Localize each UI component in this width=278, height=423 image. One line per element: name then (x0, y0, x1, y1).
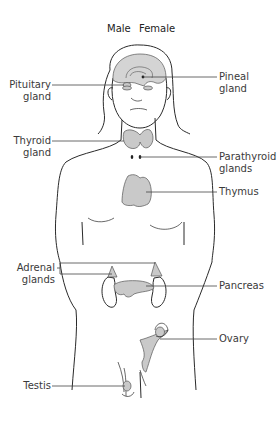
penis-outline (118, 362, 126, 396)
kidney-right (151, 277, 166, 307)
brain (113, 54, 166, 86)
label-parathyroid-line1: Parathyroid (219, 151, 276, 163)
thymus (122, 175, 151, 207)
scrotum-line (122, 392, 134, 396)
label-adrenal-line1: Adrenal (3, 262, 55, 274)
label-testis: Testis (3, 380, 51, 392)
inner-thigh (140, 372, 141, 398)
leader-adrenal-upper (60, 263, 155, 266)
chest-right (150, 222, 182, 229)
label-ovary-line1: Ovary (219, 333, 249, 345)
thyroid-gland (123, 129, 153, 148)
leader-adrenal (60, 266, 112, 274)
label-pituitary-line2: gland (3, 91, 51, 103)
label-parathyroid: Parathyroid glands (219, 151, 276, 175)
mouth (130, 109, 147, 111)
endocrine-system-diagram (0, 0, 278, 423)
torso-left (55, 140, 121, 390)
adrenal-gland-left (108, 266, 117, 277)
neck-left (121, 120, 122, 140)
arm-line-left (82, 222, 83, 245)
label-adrenal-line2: glands (3, 274, 55, 286)
label-pituitary: Pituitary gland (3, 79, 51, 103)
label-parathyroid-line2: glands (219, 163, 276, 175)
label-thyroid-line1: Thyroid (3, 135, 51, 147)
label-ovary: Ovary (219, 333, 249, 345)
label-testis-line1: Testis (3, 380, 51, 392)
label-pituitary-line1: Pituitary (3, 79, 51, 91)
label-pineal-line2: gland (219, 83, 249, 95)
label-thymus-line1: Thymus (219, 186, 259, 198)
label-pineal: Pineal gland (219, 71, 249, 95)
header-male: Male (107, 23, 131, 34)
torso-right (156, 140, 215, 390)
adrenal-gland-right (151, 262, 162, 276)
label-adrenal: Adrenal glands (3, 262, 55, 286)
label-thyroid-line2: gland (3, 147, 51, 159)
header-female: Female (139, 23, 175, 34)
face-outline (112, 78, 167, 128)
pancreas (114, 281, 154, 297)
parathyroid-gland-left (131, 155, 134, 159)
label-pancreas: Pancreas (219, 280, 264, 292)
uterus (140, 330, 168, 372)
kidney-left (102, 277, 117, 307)
eye-left (123, 86, 132, 90)
label-thyroid: Thyroid gland (3, 135, 51, 159)
chest-left (88, 218, 114, 222)
eye-right (144, 86, 153, 90)
label-pineal-line1: Pineal (219, 71, 249, 83)
nose (131, 98, 142, 101)
label-thymus: Thymus (219, 186, 259, 198)
label-pancreas-line1: Pancreas (219, 280, 264, 292)
